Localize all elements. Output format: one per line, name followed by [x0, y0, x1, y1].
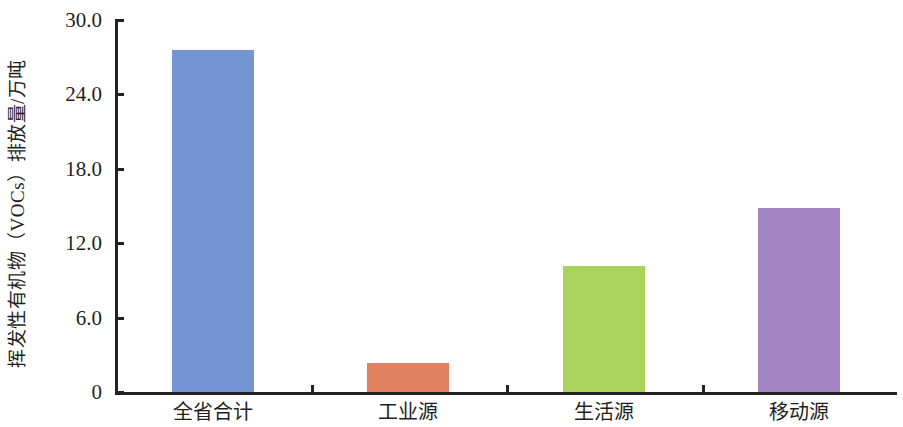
x-axis-label-3: 生活源 — [574, 400, 634, 424]
y-axis-title: 挥发性有机物（VOCs）排放量/万吨 — [0, 0, 34, 427]
y-axis-tick-labels: 30.024.018.012.06.00 — [36, 0, 110, 427]
y-axis-title-label: 挥发性有机物（VOCs）排放量/万吨 — [8, 59, 27, 368]
x-axis-tick-mark — [311, 385, 314, 395]
plot-area — [115, 20, 897, 392]
y-axis-line — [115, 20, 118, 392]
x-axis-tick-mark — [702, 385, 705, 395]
y-axis-tick-mark — [115, 19, 124, 22]
bar-1 — [172, 50, 254, 392]
y-axis-tick-label: 24.0 — [65, 84, 102, 105]
y-axis-tick-label: 0 — [92, 382, 103, 403]
x-axis-label-4: 移动源 — [769, 400, 829, 424]
x-axis-label-1: 全省合计 — [173, 400, 253, 424]
y-axis-tick-label: 18.0 — [65, 158, 102, 179]
y-axis-tick-label: 6.0 — [76, 307, 102, 328]
y-axis-tick-mark — [115, 168, 124, 171]
x-axis-category-labels: 全省合计工业源生活源移动源 — [115, 398, 897, 427]
bar-chart: 挥发性有机物（VOCs）排放量/万吨 30.024.018.012.06.00 … — [0, 0, 903, 427]
bar-4 — [758, 208, 840, 392]
y-axis-tick-mark — [115, 93, 124, 96]
bar-3 — [563, 266, 645, 392]
y-axis-tick-label: 30.0 — [65, 10, 102, 31]
y-axis-tick-mark — [115, 391, 124, 394]
y-axis-tick-label: 12.0 — [65, 233, 102, 254]
y-axis-tick-mark — [115, 242, 124, 245]
bar-2 — [367, 363, 449, 392]
y-axis-tick-mark — [115, 317, 124, 320]
x-axis-tick-mark — [506, 385, 509, 395]
x-axis-label-2: 工业源 — [378, 400, 438, 424]
